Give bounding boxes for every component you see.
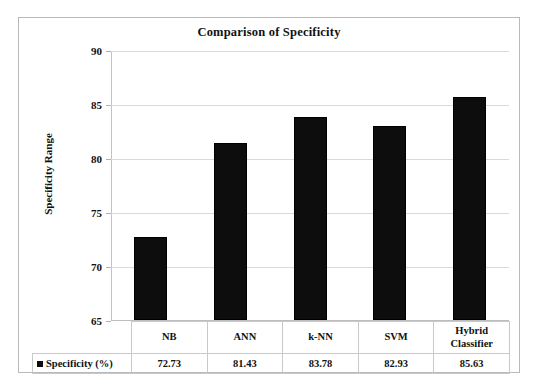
y-axis-tick: [106, 105, 111, 106]
bar: [373, 126, 406, 320]
table-row-values: Specificity (%) 72.7381.4383.7882.9385.6…: [33, 354, 510, 374]
y-axis-line: [111, 51, 112, 321]
table-cell-category: HybridClassifier: [434, 322, 510, 354]
bar: [453, 97, 486, 320]
category-label: ANN: [208, 331, 283, 344]
plot-area: 657075808590: [111, 51, 509, 321]
category-label: Hybrid: [434, 325, 509, 338]
category-label: k-NN: [283, 331, 358, 344]
legend-swatch-icon: [37, 361, 43, 367]
table-cell-category: ANN: [207, 322, 283, 354]
table-cell-value: 82.93: [358, 354, 434, 374]
y-axis-tick: [106, 213, 111, 214]
y-axis-title: Specificity Range: [42, 114, 54, 234]
legend-cell: Specificity (%): [33, 354, 132, 374]
table-row-categories: NBANNk-NNSVMHybridClassifier: [33, 322, 510, 354]
chart-title: Comparison of Specificity: [19, 25, 519, 40]
y-tick-label: 70: [91, 261, 102, 273]
gridline: [111, 105, 509, 106]
data-table: NBANNk-NNSVMHybridClassifier Specificity…: [32, 321, 510, 374]
category-label: SVM: [359, 331, 434, 344]
table-cell-value: 85.63: [434, 354, 510, 374]
chart-container: Comparison of Specificity Specificity Ra…: [0, 0, 537, 391]
y-tick-label: 75: [91, 207, 102, 219]
legend-label: Specificity (%): [46, 358, 113, 369]
gridline: [111, 51, 509, 52]
y-axis-tick: [106, 267, 111, 268]
table-cell-category: NB: [132, 322, 208, 354]
y-axis-tick: [106, 51, 111, 52]
y-axis-tick: [106, 159, 111, 160]
table-cell-category: SVM: [358, 322, 434, 354]
chart-frame: Comparison of Specificity Specificity Ra…: [18, 17, 520, 373]
category-label: NB: [132, 331, 207, 344]
y-tick-label: 90: [91, 45, 102, 57]
table-cell-category: k-NN: [283, 322, 359, 354]
table-cell-value: 81.43: [207, 354, 283, 374]
category-label: Classifier: [434, 338, 509, 351]
table-cell-value: 83.78: [283, 354, 359, 374]
bar: [134, 237, 167, 320]
y-tick-label: 85: [91, 99, 102, 111]
bar: [294, 117, 327, 320]
y-tick-label: 80: [91, 153, 102, 165]
bar: [214, 143, 247, 320]
table-corner-cell: [33, 322, 132, 354]
table-cell-value: 72.73: [132, 354, 208, 374]
